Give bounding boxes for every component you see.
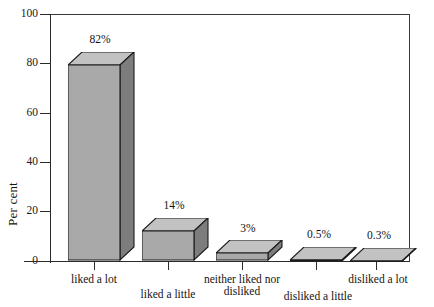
x-label-liked-a-lot: liked a lot — [54, 274, 134, 286]
y-tick-mark — [40, 113, 50, 114]
x-tick-3 — [242, 262, 243, 270]
x-tick-1 — [94, 262, 95, 270]
bar-disliked-a-little[interactable] — [290, 247, 357, 262]
bar-disliked-a-lot[interactable] — [350, 248, 417, 262]
y-tick-80: 80 — [0, 63, 50, 64]
x-tick-2 — [168, 262, 169, 270]
x-tick-4 — [316, 262, 317, 270]
y-axis-line — [50, 14, 51, 263]
bar-value-disliked-a-lot: 0.3% — [349, 230, 409, 242]
y-tick-mark — [40, 162, 50, 163]
y-tick-mark — [40, 63, 50, 64]
bar-liked-a-lot[interactable] — [68, 52, 135, 261]
bar-neither-liked-nor-disliked[interactable] — [216, 240, 283, 261]
bar-3d-shape — [68, 52, 135, 261]
bar-liked-a-little[interactable] — [142, 218, 209, 261]
bar-3d-shape — [290, 247, 357, 262]
y-tick-20: 20 — [0, 211, 50, 212]
x-tick-5 — [376, 262, 377, 270]
y-tick-label: 100 — [0, 8, 38, 20]
x-label-line-2: disliked — [224, 285, 260, 297]
y-tick-mark — [40, 211, 50, 212]
bar-value-neither-liked-nor-disliked: 3% — [218, 223, 278, 235]
bar-3d-shape — [350, 248, 417, 262]
bar-3d-shape — [216, 240, 283, 261]
bar-chart: Per cent 100 80 60 40 20 0 82% — [0, 0, 434, 307]
y-tick-label: 20 — [0, 205, 38, 217]
y-tick-100: 100 — [0, 14, 50, 15]
bar-value-disliked-a-little: 0.5% — [289, 229, 349, 241]
y-tick-label: 80 — [0, 57, 38, 69]
bar-value-liked-a-little: 14% — [144, 200, 204, 212]
y-tick-40: 40 — [0, 162, 50, 163]
x-label-disliked-a-little: disliked a little — [272, 291, 364, 303]
x-label-disliked-a-lot: disliked a lot — [336, 274, 420, 286]
x-label-line-1: neither liked nor — [204, 273, 280, 285]
bar-3d-shape — [142, 218, 209, 261]
y-tick-60: 60 — [0, 113, 50, 114]
y-tick-label: 60 — [0, 107, 38, 119]
y-tick-mark — [40, 14, 50, 15]
y-axis-title: Per cent — [5, 169, 21, 239]
bar-value-liked-a-lot: 82% — [70, 34, 130, 46]
y-tick-label: 40 — [0, 156, 38, 168]
